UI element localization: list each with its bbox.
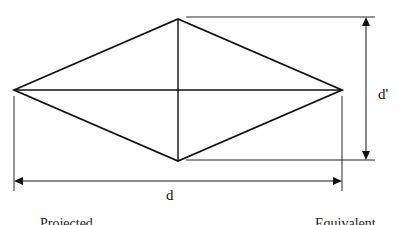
arrowhead-up-icon (362, 17, 370, 26)
caption-equivalent: Equivalent (315, 216, 376, 225)
caption-projected: Projected (40, 216, 93, 225)
arrowhead-down-icon (362, 151, 370, 160)
rhombus-diagram (0, 0, 399, 225)
arrowhead-right-icon (333, 177, 342, 185)
label-d: d (166, 187, 174, 204)
label-d-prime: d' (378, 86, 388, 103)
arrowhead-left-icon (14, 177, 23, 185)
